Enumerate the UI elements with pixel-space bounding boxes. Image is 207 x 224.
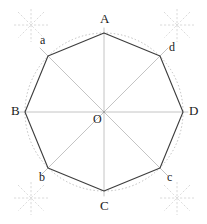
center-point [103, 111, 105, 113]
center-label-O: O [93, 113, 102, 125]
vertex-label-D: D [189, 104, 198, 117]
vertex-label-B: B [11, 104, 20, 117]
construction-mark-top-right [160, 9, 194, 42]
vertex-label-b: b [39, 171, 45, 183]
octagon-construction-drawing [0, 0, 207, 224]
vertex-label-a: a [40, 34, 45, 46]
vertex-label-C: C [100, 199, 109, 212]
vertex-label-d: d [169, 41, 175, 53]
construction-mark-bottom-left [14, 182, 48, 215]
vertex-label-A: A [100, 12, 109, 25]
vertex-label-c: c [167, 171, 172, 183]
construction-mark-bottom-right [160, 182, 194, 215]
geometry-figure: A d D c C b B a O [0, 0, 207, 224]
